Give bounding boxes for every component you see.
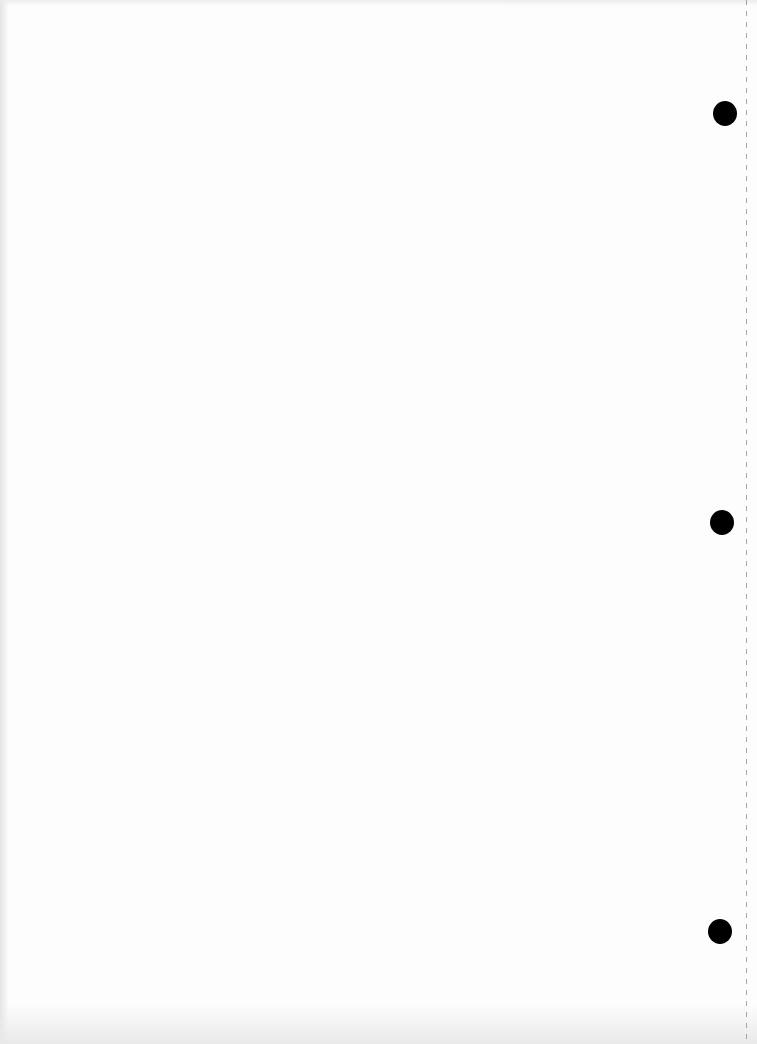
scan-edge-shadow-bottom — [0, 1004, 757, 1044]
punch-hole-top — [713, 101, 737, 126]
punch-hole-middle — [710, 510, 734, 535]
perforation-line — [746, 0, 747, 1044]
scanned-page — [0, 0, 757, 1044]
scan-edge-shadow-left — [0, 0, 8, 1044]
scan-edge-shadow-top — [0, 0, 757, 6]
punch-hole-bottom — [708, 919, 732, 944]
